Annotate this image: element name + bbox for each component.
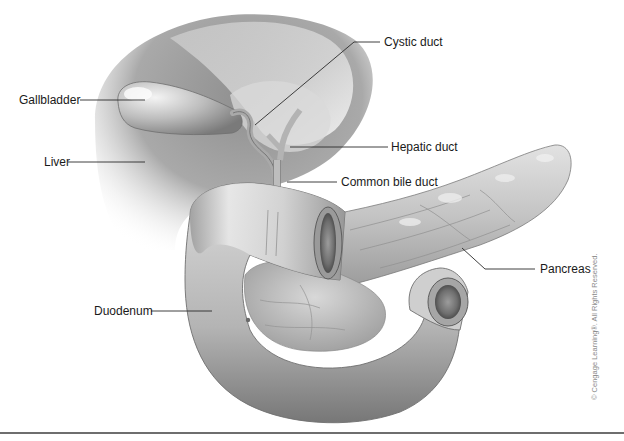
label-gallbladder: Gallbladder xyxy=(19,93,80,107)
label-duodenum: Duodenum xyxy=(94,304,153,318)
anatomy-illustration xyxy=(0,0,624,441)
leader-pancreas xyxy=(462,248,535,269)
label-cystic-duct: Cystic duct xyxy=(384,35,443,49)
label-pancreas: Pancreas xyxy=(540,262,591,276)
label-hepatic-duct: Hepatic duct xyxy=(391,140,458,154)
label-liver: Liver xyxy=(44,155,70,169)
copyright-notice: © Cengage Learning®. All Rights Reserved… xyxy=(590,250,599,400)
bottom-rule xyxy=(0,432,624,434)
label-common-bile-duct: Common bile duct xyxy=(341,175,438,189)
